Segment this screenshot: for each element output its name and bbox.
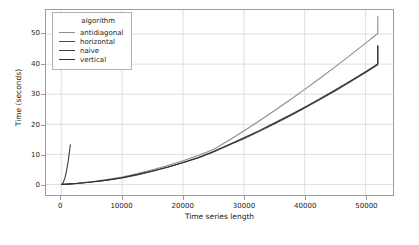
legend-entry: horizontal (59, 37, 124, 46)
x-tick-label: 40000 (275, 202, 335, 210)
x-tick-mark (305, 196, 306, 200)
legend-entry: antidiagonal (59, 28, 124, 37)
x-tick-mark (60, 196, 61, 200)
y-tick-mark (41, 64, 45, 65)
legend-entry-label: antidiagonal (80, 29, 124, 37)
x-tick-label: 20000 (153, 202, 213, 210)
x-tick-mark (366, 196, 367, 200)
y-tick-mark (41, 94, 45, 95)
chart-figure: 01020304050 01000020000300004000050000 T… (0, 0, 419, 245)
x-axis-label: Time series length (45, 212, 394, 221)
y-tick-label: 10 (0, 151, 40, 159)
legend-entries: antidiagonalhorizontalnaivevertical (59, 28, 124, 64)
legend-entry-label: vertical (80, 56, 106, 64)
legend-entry: vertical (59, 55, 124, 64)
x-tick-mark (122, 196, 123, 200)
legend-swatch-icon (59, 32, 75, 33)
x-tick-mark (244, 196, 245, 200)
y-tick-mark (41, 155, 45, 156)
y-tick-mark (41, 185, 45, 186)
x-tick-label: 0 (30, 202, 90, 210)
legend-entry-label: naive (80, 47, 99, 55)
y-tick-mark (41, 33, 45, 34)
legend-swatch-icon (59, 59, 75, 60)
y-axis-label: Time (seconds) (14, 48, 23, 148)
x-tick-label: 30000 (214, 202, 274, 210)
x-tick-mark (183, 196, 184, 200)
legend-swatch-icon (59, 50, 75, 51)
legend: algorithm antidiagonalhorizontalnaivever… (52, 12, 132, 70)
legend-title: algorithm (59, 17, 124, 25)
y-tick-label: 50 (0, 29, 40, 37)
y-tick-label: 0 (0, 181, 40, 189)
legend-entry-label: horizontal (80, 38, 115, 46)
y-tick-mark (41, 125, 45, 126)
legend-entry: naive (59, 46, 124, 55)
x-tick-label: 10000 (92, 202, 152, 210)
x-tick-label: 50000 (336, 202, 396, 210)
legend-swatch-icon (59, 41, 75, 42)
